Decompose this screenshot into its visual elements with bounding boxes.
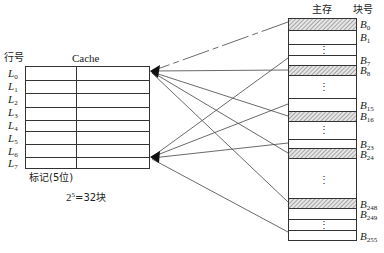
cache-title: Cache [72, 52, 99, 64]
mapping-lines [152, 22, 288, 232]
ellipsis: ⋮ [319, 219, 329, 231]
row-number-header: 行号 [4, 52, 24, 64]
ellipsis: ⋮ [319, 81, 329, 93]
ellipsis: ⋮ [319, 44, 329, 56]
block-label: B1 [360, 31, 370, 47]
cache-table [26, 67, 150, 169]
arrowhead-icon [150, 151, 160, 163]
block-label: B255 [360, 230, 377, 246]
tag-label: 标记(5位) [29, 172, 73, 184]
block-label: B24 [360, 148, 374, 164]
block-number-header: 块号 [353, 4, 373, 16]
main-memory-title: 主存 [312, 4, 332, 16]
cache-line-label: L7 [8, 157, 18, 173]
block-label: B8 [360, 64, 370, 80]
block-label: B16 [360, 110, 374, 126]
block-label: B249 [360, 208, 377, 224]
ellipsis: ⋮ [319, 174, 329, 186]
block-count-label: 25=32块 [66, 189, 106, 204]
ellipsis: ⋮ [319, 124, 329, 136]
